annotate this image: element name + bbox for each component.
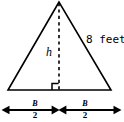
triangle-outline (8, 2, 111, 90)
hypotenuse-length-label: 8 feet (86, 34, 124, 45)
geometry-figure: 8 feet h B 2 B 2 (0, 0, 124, 122)
center-arrowhead-pointing-left (58, 106, 66, 115)
arrowhead-left (2, 106, 10, 114)
base-half-label-left: B 2 (28, 100, 42, 120)
base-half-label-right: B 2 (78, 100, 92, 120)
base-half-right-denominator: 2 (78, 110, 92, 120)
base-half-left-numerator: B (28, 100, 42, 109)
height-label: h (46, 46, 52, 58)
arrowhead-right (114, 106, 122, 114)
base-half-left-denominator: 2 (28, 110, 42, 120)
diagram-canvas (0, 0, 124, 122)
base-half-right-numerator: B (78, 100, 92, 109)
center-arrowhead-pointing-right (52, 106, 60, 115)
right-angle-marker (52, 84, 59, 91)
